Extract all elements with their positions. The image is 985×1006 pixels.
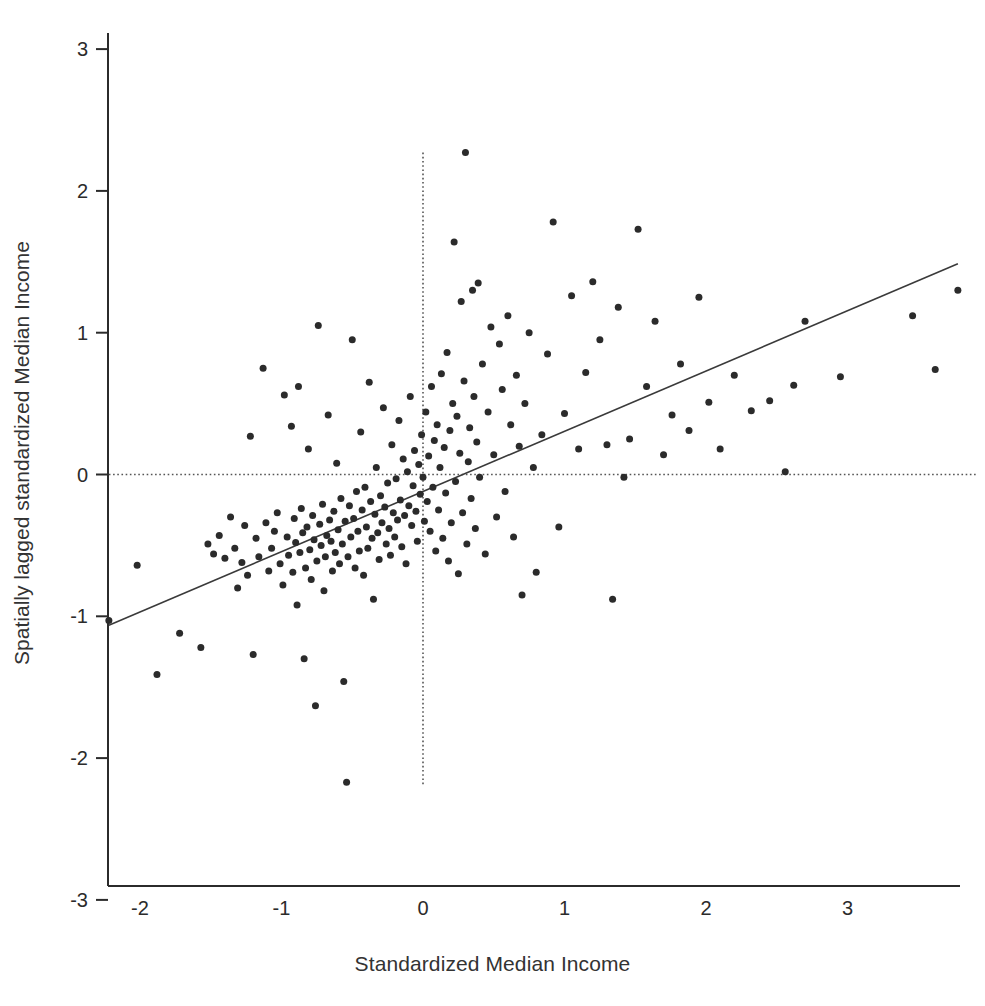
scatter-point	[414, 538, 421, 545]
y-tick-label: 1	[40, 321, 88, 344]
scatter-point	[274, 509, 281, 516]
scatter-point	[550, 219, 557, 226]
y-tick-label: 2	[40, 179, 88, 202]
scatter-point	[669, 411, 676, 418]
scatter-point	[332, 549, 339, 556]
x-axis-title: Standardized Median Income	[0, 952, 985, 976]
scatter-point	[318, 542, 325, 549]
scatter-point	[303, 523, 310, 530]
scatter-point	[343, 779, 350, 786]
scatter-point	[421, 518, 428, 525]
scatter-point	[289, 569, 296, 576]
scatter-point	[376, 556, 383, 563]
scatter-point	[330, 508, 337, 515]
scatter-point	[516, 443, 523, 450]
scatter-point	[407, 393, 414, 400]
scatter-point	[453, 413, 460, 420]
scatter-point	[210, 550, 217, 557]
scatter-point	[428, 383, 435, 390]
scatter-point	[377, 492, 384, 499]
scatter-point	[521, 400, 528, 407]
scatter-point	[231, 545, 238, 552]
scatter-point	[260, 365, 267, 372]
scatter-point	[380, 404, 387, 411]
scatter-point	[603, 441, 610, 448]
scatter-point	[244, 572, 251, 579]
scatter-point	[153, 671, 160, 678]
scatter-point	[686, 427, 693, 434]
scatter-point	[405, 502, 412, 509]
scatter-point	[677, 360, 684, 367]
scatter-point	[470, 393, 477, 400]
scatter-point	[360, 572, 367, 579]
scatter-point	[247, 433, 254, 440]
scatter-point	[364, 545, 371, 552]
data-points	[105, 149, 961, 786]
scatter-point	[748, 407, 755, 414]
scatter-point	[319, 501, 326, 508]
scatter-point	[802, 318, 809, 325]
scatter-point	[357, 428, 364, 435]
scatter-point	[388, 441, 395, 448]
scatter-point	[322, 553, 329, 560]
scatter-point	[241, 522, 248, 529]
scatter-point	[455, 570, 462, 577]
scatter-point	[427, 528, 434, 535]
scatter-point	[485, 409, 492, 416]
scatter-point	[465, 458, 472, 465]
scatter-point	[431, 437, 438, 444]
scatter-point	[227, 514, 234, 521]
scatter-point	[312, 702, 319, 709]
scatter-point	[660, 451, 667, 458]
scatter-point	[315, 322, 322, 329]
scatter-point	[463, 540, 470, 547]
scatter-point	[371, 511, 378, 518]
scatter-point	[397, 497, 404, 504]
scatter-point	[533, 569, 540, 576]
scatter-point	[411, 447, 418, 454]
scatter-point	[398, 543, 405, 550]
scatter-point	[417, 491, 424, 498]
scatter-point	[345, 553, 352, 560]
scatter-point	[446, 427, 453, 434]
y-axis-title: Spatially lagged standardized Median Inc…	[10, 241, 34, 665]
scatter-point	[432, 548, 439, 555]
scatter-point	[340, 678, 347, 685]
scatter-point	[378, 519, 385, 526]
scatter-point	[530, 464, 537, 471]
scatter-point	[363, 523, 370, 530]
scatter-point	[635, 226, 642, 233]
scatter-point	[294, 601, 301, 608]
scatter-point	[456, 450, 463, 457]
scatter-point	[299, 529, 306, 536]
scatter-point	[349, 336, 356, 343]
scatter-point	[544, 350, 551, 357]
axis-lines	[108, 33, 960, 886]
scatter-point	[451, 238, 458, 245]
scatter-point	[909, 312, 916, 319]
y-tick-label: -3	[40, 888, 88, 911]
scatter-point	[424, 498, 431, 505]
scatter-point	[292, 539, 299, 546]
scatter-point	[394, 516, 401, 523]
scatter-point	[387, 552, 394, 559]
scatter-point	[615, 304, 622, 311]
scatter-point	[510, 533, 517, 540]
scatter-point	[333, 460, 340, 467]
scatter-point	[401, 512, 408, 519]
y-tick-label: 0	[40, 463, 88, 486]
x-tick-label: -2	[131, 897, 149, 920]
scatter-point	[381, 504, 388, 511]
y-axis-title-container: Spatially lagged standardized Median Inc…	[0, 0, 44, 906]
x-tick-label: 0	[417, 897, 428, 920]
scatter-point	[288, 423, 295, 430]
scatter-point	[370, 596, 377, 603]
scatter-point	[277, 560, 284, 567]
scatter-point	[643, 383, 650, 390]
scatter-point	[197, 644, 204, 651]
scatter-point	[390, 509, 397, 516]
scatter-point	[575, 445, 582, 452]
scatter-point	[271, 528, 278, 535]
scatter-point	[490, 451, 497, 458]
scatter-point	[335, 526, 342, 533]
